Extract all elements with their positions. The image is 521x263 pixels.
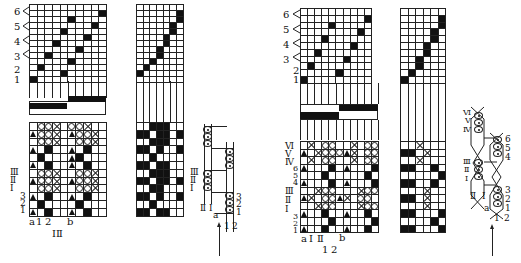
r-bottom-label-II: Ⅱ: [317, 234, 324, 244]
grid-cell: [315, 180, 322, 188]
grid-cell: [329, 9, 336, 16]
grid-cell: [99, 201, 107, 209]
grid-cell: [84, 139, 92, 147]
grid-cell: [315, 150, 322, 158]
grid-cell: [61, 123, 69, 131]
grid-cell: [358, 43, 365, 50]
grid-cell: [76, 154, 84, 162]
grid-cell: [137, 178, 144, 186]
grid-cell: [329, 172, 336, 180]
grid-cell: [439, 150, 447, 158]
grid-cell: [170, 209, 177, 217]
grid-cell: [351, 63, 358, 70]
grid-cell: [439, 50, 447, 57]
left-tieup-drop-lines: [136, 81, 183, 122]
grid-cell: [344, 203, 351, 211]
grid-cell: [358, 70, 365, 77]
grid-cell: [329, 16, 336, 23]
grid-cell: [177, 185, 184, 193]
grid-cell: [431, 23, 439, 30]
grid-cell: [61, 170, 69, 178]
grid-cell: [431, 180, 439, 188]
grid-row: [401, 188, 446, 196]
grid-cell: [92, 154, 100, 162]
grid-cell: [53, 162, 61, 170]
grid-cell: [68, 146, 76, 154]
grid-cell: [53, 131, 61, 139]
grid-cell: [351, 23, 358, 30]
grid-cell: [315, 165, 322, 173]
r-side-label-bottom-2: 2: [504, 213, 510, 223]
left-treadle-grid: [136, 122, 184, 217]
grid-cell: [177, 193, 184, 201]
grid-cell: [416, 150, 424, 158]
grid-cell: [431, 172, 439, 180]
grid-cell: [144, 193, 151, 201]
grid-cell: [401, 9, 409, 16]
grid-cell: [99, 139, 107, 147]
grid-cell: [315, 23, 322, 30]
grid-cell: [38, 123, 46, 131]
grid-cell: [53, 185, 61, 193]
grid-cell: [431, 226, 439, 234]
grid-cell: [61, 139, 69, 147]
grid-cell: [170, 154, 177, 162]
grid-cell: [144, 131, 151, 139]
grid-cell: [45, 131, 53, 139]
grid-cell: [301, 188, 308, 196]
r-bottom-label-1: 1: [322, 245, 328, 255]
grid-cell: [164, 162, 171, 170]
grid-cell: [372, 226, 379, 234]
grid-cell: [177, 131, 184, 139]
grid-cell: [164, 178, 171, 186]
r-side-label-bottom-I: Ⅰ: [482, 191, 486, 201]
grid-cell: [315, 226, 322, 234]
grid-row: [401, 195, 446, 203]
grid-row: [401, 50, 446, 57]
grid-cell: [439, 63, 447, 70]
grid-cell: [329, 157, 336, 165]
grid-cell: [401, 70, 409, 77]
grid-cell: [336, 36, 343, 43]
grid-cell: [365, 16, 372, 23]
grid-row: [301, 165, 379, 173]
grid-cell: [431, 36, 439, 43]
grid-cell: [38, 185, 46, 193]
grid-cell: [53, 146, 61, 154]
grid-cell: [76, 170, 84, 178]
grid-cell: [329, 43, 336, 50]
grid-cell: [92, 185, 100, 193]
grid-cell: [401, 57, 409, 64]
left-threading-grid: [29, 4, 107, 83]
grid-cell: [409, 218, 417, 226]
bottom-label-roman: ⅠⅡ: [52, 229, 63, 239]
grid-cell: [76, 162, 84, 170]
grid-row: [30, 201, 107, 209]
grid-row: [301, 188, 379, 196]
grid-row: [401, 172, 446, 180]
grid-cell: [150, 123, 157, 131]
grid-cell: [76, 209, 84, 217]
grid-cell: [424, 36, 432, 43]
grid-cell: [30, 154, 38, 162]
grid-cell: [344, 43, 351, 50]
grid-cell: [431, 195, 439, 203]
grid-cell: [30, 131, 38, 139]
grid-cell: [38, 162, 46, 170]
grid-cell: [38, 131, 46, 139]
grid-cell: [315, 29, 322, 36]
grid-cell: [301, 142, 308, 150]
grid-row: [301, 218, 379, 226]
grid-cell: [308, 23, 315, 30]
grid-cell: [358, 226, 365, 234]
grid-cell: [416, 50, 424, 57]
grid-cell: [431, 57, 439, 64]
grid-row: [401, 210, 446, 218]
grid-cell: [439, 9, 447, 16]
grid-cell: [170, 178, 177, 186]
grid-cell: [322, 57, 329, 64]
grid-cell: [137, 170, 144, 178]
grid-cell: [164, 209, 171, 217]
grid-cell: [344, 16, 351, 23]
grid-cell: [322, 43, 329, 50]
